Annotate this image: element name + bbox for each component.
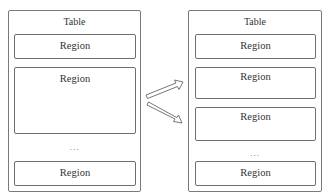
right-region-2-split-upper: Region — [195, 67, 316, 99]
region-label: Region — [196, 71, 315, 82]
right-ellipsis: ... — [189, 148, 321, 158]
arrow-up-right-icon — [146, 80, 183, 99]
region-label: Region — [196, 167, 315, 178]
region-label: Region — [196, 40, 315, 51]
region-label: Region — [196, 111, 315, 122]
arrow-down-right-icon — [147, 102, 182, 123]
right-region-3-split-lower: Region — [195, 107, 316, 141]
right-region-4: Region — [195, 161, 316, 186]
right-region-1: Region — [195, 34, 316, 59]
right-table-title: Table — [189, 16, 321, 27]
right-table: Table Region Region Region ... Region — [188, 10, 322, 192]
